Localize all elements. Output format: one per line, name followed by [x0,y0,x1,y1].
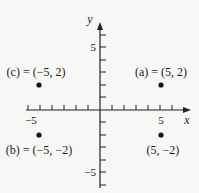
y-axis-label: y [86,12,93,26]
x-tick-label-5: 5 [158,114,164,126]
x-axis-label: x [183,113,190,127]
y-axis: 5 −5 y [84,12,106,188]
x-tick-label-neg5: −5 [25,114,37,126]
x-axis: −5 5 x [25,105,191,127]
point-b: (b) = (−5, −2) [6,132,72,157]
y-tick-label-neg5: −5 [84,166,96,178]
point-c-label: (c) = (−5, 2) [7,65,66,79]
coordinate-plane: −5 5 x 5 −5 y (a) = (5, 2) (b) = [0,0,199,193]
point-a: (a) = (5, 2) [135,65,187,88]
y-tick-label-5: 5 [91,41,97,53]
point-d-label: (5, −2) [147,143,180,157]
point-a-label: (a) = (5, 2) [135,65,187,79]
point-c: (c) = (−5, 2) [7,65,66,88]
point-b-label: (b) = (−5, −2) [6,143,72,157]
point-d: (5, −2) [147,132,180,157]
